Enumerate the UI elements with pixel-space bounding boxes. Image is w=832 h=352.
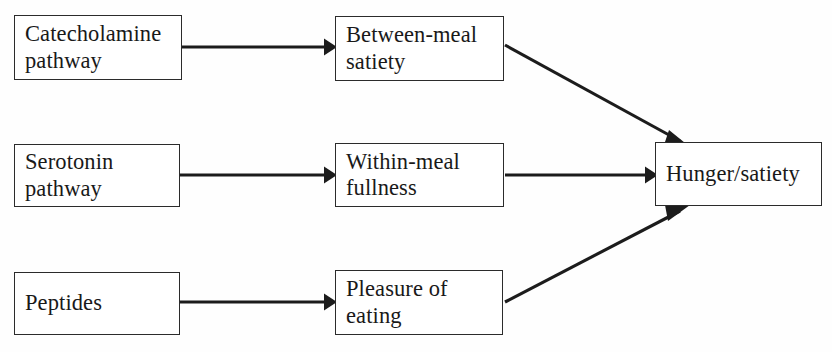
node-serotonin-pathway-label: Serotonin pathway (25, 149, 113, 201)
node-within-meal-fullness-label: Within-meal fullness (346, 149, 460, 201)
node-serotonin-pathway[interactable]: Serotonin pathway (14, 144, 180, 207)
edge-within-meal-to-hunger (505, 167, 658, 184)
node-peptides[interactable]: Peptides (14, 272, 180, 335)
edge-catecholamine-to-between-meal (182, 39, 337, 56)
edge-between-meal-to-hunger (505, 45, 690, 147)
edge-pleasure-to-hunger (505, 205, 690, 302)
node-catecholamine-pathway-label: Catecholamine pathway (25, 21, 161, 73)
diagram-canvas: Catecholamine pathway Serotonin pathway … (0, 0, 832, 352)
edge-serotonin-to-within-meal (180, 167, 337, 184)
edge-peptides-to-pleasure (180, 294, 337, 311)
node-within-meal-fullness[interactable]: Within-meal fullness (335, 143, 504, 207)
node-catecholamine-pathway[interactable]: Catecholamine pathway (14, 15, 182, 80)
node-pleasure-of-eating[interactable]: Pleasure of eating (335, 270, 503, 335)
node-peptides-label: Peptides (25, 290, 102, 316)
node-hunger-satiety[interactable]: Hunger/satiety (655, 142, 822, 206)
node-between-meal-satiety[interactable]: Between-meal satiety (335, 16, 504, 81)
node-hunger-satiety-label: Hunger/satiety (666, 161, 800, 187)
node-pleasure-of-eating-label: Pleasure of eating (346, 276, 448, 328)
node-between-meal-satiety-label: Between-meal satiety (346, 22, 477, 74)
